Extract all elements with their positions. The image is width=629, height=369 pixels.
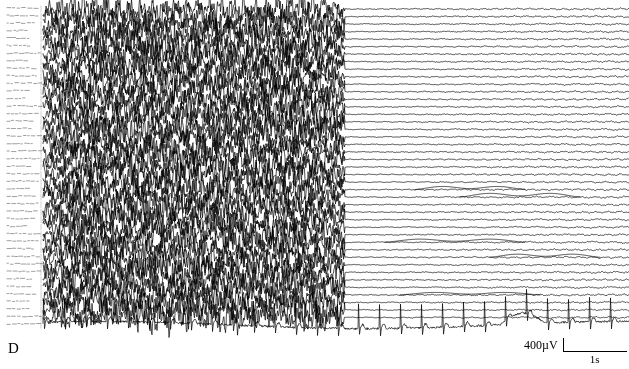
calibration-scale-bar: 1s [563, 338, 627, 360]
eeg-figure: D 400µV 1s [0, 0, 629, 369]
calibration-horizontal-bar [563, 351, 627, 352]
calibration-bar: 400µV 1s [524, 338, 627, 360]
eeg-traces-canvas [0, 0, 629, 369]
calibration-vertical-tick [563, 338, 564, 352]
calibration-voltage-label: 400µV [524, 338, 558, 352]
calibration-time-label: 1s [563, 353, 627, 365]
panel-label: D [8, 341, 19, 356]
